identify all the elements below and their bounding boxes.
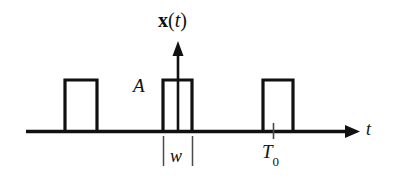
period-label-subscript: 0 [273,154,280,169]
amplitude-axis-arrowhead [173,41,184,56]
period-label-symbol: T [262,141,273,162]
pulse-left-outline [65,80,97,131]
vertical-axis-label-open-paren: ( [168,9,175,31]
time-axis-arrowhead [345,125,360,138]
pulse-train-figure: x(t) A w T0 t [0,0,397,188]
pulse-width-label: w [170,147,182,165]
pulse-right-outline [263,80,293,131]
amplitude-label: A [133,76,145,95]
amplitude-axis-group [173,41,184,133]
vertical-axis-label-x: x [158,9,168,31]
vertical-axis-label: x(t) [158,10,187,30]
pulse-left [65,80,97,131]
waveform-canvas [0,0,397,188]
period-label: T0 [262,142,279,165]
vertical-axis-label-close-paren: ) [180,9,187,31]
pulse-right [263,80,293,131]
time-axis-label: t [366,120,371,138]
